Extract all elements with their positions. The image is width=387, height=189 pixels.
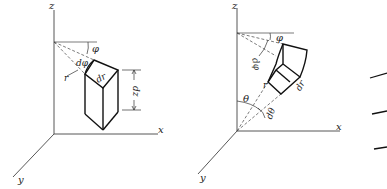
partial-line-2	[372, 111, 387, 114]
partial-cropped-figure	[370, 73, 387, 149]
y-axis	[198, 131, 237, 174]
partial-line-1	[370, 73, 387, 78]
y-axis	[13, 134, 54, 177]
dphi-arc	[259, 40, 268, 56]
phi-label: φ	[92, 43, 99, 54]
coordinate-diagram: z x y φ dφ r dr	[0, 0, 387, 189]
dz-label: dz	[131, 86, 141, 97]
cylindrical-panel: z x y φ dφ r dr	[13, 0, 164, 185]
theta-label: θ	[243, 93, 249, 104]
r-label: r	[263, 80, 268, 90]
x-axis-label: x	[336, 121, 342, 132]
dtheta-label: dθ	[264, 106, 277, 120]
x-axis-label: x	[158, 124, 164, 135]
phi-label: φ	[276, 32, 283, 43]
z-axis-label: z	[231, 0, 238, 11]
spherical-panel: z x y φ dφ r θ dθ dr	[198, 0, 342, 183]
r-label: r	[64, 73, 69, 83]
y-axis-label: y	[17, 174, 24, 185]
phi-arc	[270, 33, 271, 40]
y-axis-label: y	[199, 172, 206, 183]
cylindrical-volume-element	[85, 60, 118, 130]
r-arrow	[67, 70, 78, 76]
dphi-label: dφ	[250, 57, 262, 71]
phi-arc	[87, 42, 88, 54]
z-axis-label: z	[48, 0, 55, 11]
dphi-label: dφ	[76, 58, 89, 68]
partial-line-3	[374, 147, 387, 149]
